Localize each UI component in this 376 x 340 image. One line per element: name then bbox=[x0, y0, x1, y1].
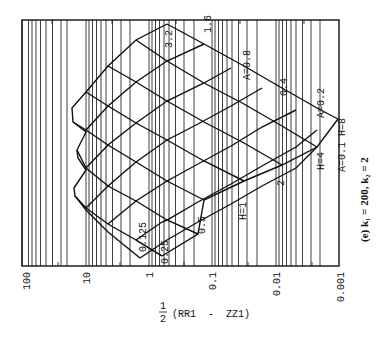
label-h-0-125: 0.125 bbox=[138, 222, 149, 252]
label-a-0-1-h-8: A=0.1 H=8 bbox=[337, 118, 348, 172]
tick-0-1: 0.1 bbox=[208, 272, 219, 290]
label-h-4: H=4 bbox=[316, 152, 327, 170]
fraction-denominator: 2 bbox=[160, 314, 166, 325]
tick-0-01: 0.01 bbox=[272, 272, 283, 296]
label-h-0-25: 0.25 bbox=[160, 240, 171, 264]
label-a-0-8: A=0.8 bbox=[242, 50, 253, 80]
tick-10: 10 bbox=[82, 272, 93, 284]
fraction-numerator: 1 bbox=[160, 301, 166, 312]
figure-caption: (e) k₁ = 200, k₂ = 2 bbox=[358, 157, 371, 242]
tick-1: 1 bbox=[145, 272, 156, 278]
label-a-3-2: 3.2 bbox=[164, 30, 175, 48]
label-h-1: H=1 bbox=[238, 202, 249, 220]
label-h-2: 2 bbox=[276, 180, 287, 186]
carpet-chart: 3.2 1.6 A=0.8 0.4 A=0.2 A=0.1 H=8 0.125 … bbox=[0, 0, 376, 340]
label-a-0-2: A=0.2 bbox=[316, 88, 327, 118]
tick-100: 100 bbox=[22, 272, 33, 290]
x-axis-label-text: (RR1 - ZZ1) bbox=[172, 309, 250, 320]
tick-0-001: 0.001 bbox=[336, 272, 347, 302]
label-h-0-5: 0.5 bbox=[197, 216, 208, 234]
label-a-0-4: 0.4 bbox=[279, 78, 290, 96]
label-a-1-6: 1.6 bbox=[203, 15, 214, 33]
